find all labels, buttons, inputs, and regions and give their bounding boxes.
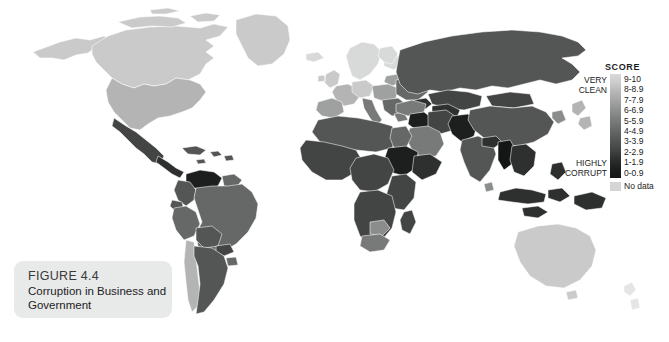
region-united-kingdom <box>318 70 340 88</box>
legend-anchor-very: VERY <box>584 75 607 85</box>
legend-range: 6-6.9 <box>624 105 666 115</box>
region-egypt <box>390 126 412 148</box>
legend-anchor-clean: CLEAN <box>579 85 607 95</box>
legend-title: SCORE <box>605 62 640 72</box>
legend-gradient-bar <box>610 74 621 178</box>
region-greenland <box>236 14 290 66</box>
legend-anchor-corrupt: CORRUPT <box>565 168 607 178</box>
map-legend: SCORE VERY CLEAN HIGHLY CORRUPT 9-10 8-8… <box>566 62 666 194</box>
region-central-america <box>156 156 184 178</box>
region-iceland <box>306 52 324 62</box>
region-argentina <box>194 246 228 314</box>
region-indonesia <box>498 188 570 218</box>
legend-range: 7-7.9 <box>624 95 666 105</box>
legend-range: 0-0.9 <box>624 168 666 178</box>
region-caribbean <box>182 146 234 164</box>
legend-range-labels: 9-10 8-8.9 7-7.9 6-6.9 5-5.9 4-4.9 3-3.9… <box>624 74 666 178</box>
region-iberia <box>316 98 344 118</box>
legend-range: 1-1.9 <box>624 157 666 167</box>
legend-range: 9-10 <box>624 74 666 84</box>
region-horn-of-africa <box>412 154 442 180</box>
legend-range: 3-3.9 <box>624 136 666 146</box>
legend-range: 2-2.9 <box>624 147 666 157</box>
region-tasmania <box>566 290 578 300</box>
legend-anchor-highly: HIGHLY <box>576 158 607 168</box>
region-uruguay <box>226 257 238 266</box>
figure-caption-box: FIGURE 4.4 Corruption in Business and Go… <box>14 261 172 318</box>
legend-no-data-swatch <box>610 182 621 191</box>
region-new-zealand <box>624 282 640 310</box>
legend-no-data-label: No data <box>624 181 654 191</box>
region-mongolia <box>486 92 534 108</box>
figure-number: FIGURE 4.4 <box>28 269 172 284</box>
region-canada-islands <box>118 8 220 28</box>
region-russia <box>396 30 586 94</box>
region-indochina <box>510 144 536 176</box>
region-central-africa <box>350 154 394 192</box>
region-madagascar <box>400 210 416 234</box>
region-papua-new-guinea <box>574 192 606 210</box>
legend-range: 4-4.9 <box>624 126 666 136</box>
region-south-africa <box>360 234 390 252</box>
legend-range: 8-8.9 <box>624 84 666 94</box>
region-united-states <box>106 78 206 130</box>
region-australia <box>514 224 596 288</box>
legend-no-data-row: No data <box>610 182 666 193</box>
figure-title: Corruption in Business and Government <box>28 285 172 312</box>
region-philippines <box>550 162 566 180</box>
region-sri-lanka <box>484 182 494 192</box>
legend-range: 5-5.9 <box>624 116 666 126</box>
figure-corruption-map: SCORE VERY CLEAN HIGHLY CORRUPT 9-10 8-8… <box>0 0 669 342</box>
